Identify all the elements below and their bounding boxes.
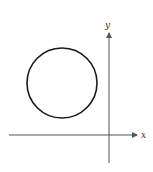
x-axis-label: x — [141, 130, 146, 140]
y-axis-label: y — [104, 20, 111, 30]
circle — [27, 48, 97, 118]
coordinate-diagram: x y — [0, 0, 153, 172]
